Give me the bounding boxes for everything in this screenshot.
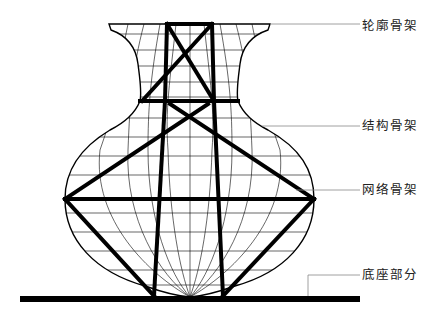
leader-lines: [262, 24, 360, 296]
label-grid-skeleton: 网络骨架: [362, 183, 418, 197]
label-base-part: 底座部分: [362, 268, 418, 282]
structure-skeleton: [65, 24, 314, 296]
vase-contour: [65, 24, 314, 297]
base-platform: [20, 296, 360, 302]
label-contour-skeleton: 轮廓骨架: [362, 19, 418, 33]
label-structure-skeleton: 结构骨架: [362, 119, 418, 133]
